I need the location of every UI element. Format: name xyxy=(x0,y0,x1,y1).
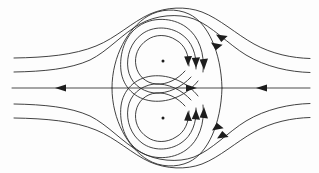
outer-separatrix-lower-half xyxy=(112,88,222,166)
outer-streamline-upper-outer-arrow xyxy=(216,35,228,43)
outer-streamline-lower-inner xyxy=(14,104,310,161)
upper-vortex-center-dot xyxy=(162,60,165,63)
upper-vortex-arrow-outer xyxy=(200,59,208,70)
upper-vortex-arrow-inner xyxy=(184,56,192,66)
axis-arrow-right xyxy=(256,85,267,92)
outer-streamline-upper-outer xyxy=(14,8,310,58)
lower-vortex-arrow-middle xyxy=(192,109,200,120)
lower-vortex-arrow-inner xyxy=(184,111,192,121)
lower-vortex-arrow-outer xyxy=(200,107,208,118)
upper-vortex-arrow-middle xyxy=(192,57,200,68)
streamline-figure xyxy=(0,0,319,173)
outer-streamline-upper-inner xyxy=(14,16,310,73)
outer-streamline-upper-inner-arrow xyxy=(211,43,223,51)
axis-arrow-middle xyxy=(186,85,197,92)
outer-streamline-lower-outer xyxy=(14,118,310,168)
axis-arrow-left xyxy=(55,85,66,92)
streamline-canvas xyxy=(0,0,319,173)
outer-streamline-lower-inner-arrow xyxy=(212,123,224,131)
lower-vortex-center-dot xyxy=(162,117,165,120)
